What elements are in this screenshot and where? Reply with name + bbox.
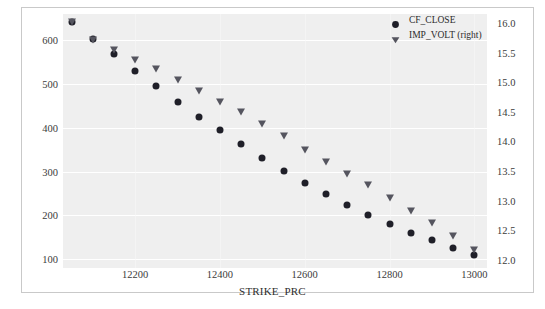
gridline-horizontal — [63, 215, 487, 216]
data-point-imp-volt — [386, 194, 394, 201]
y-tick-label-left: 100 — [42, 254, 58, 265]
data-point-imp-volt — [110, 46, 118, 53]
gridline-horizontal — [63, 259, 487, 260]
y-tick-label-left: 200 — [42, 210, 58, 221]
data-point-imp-volt — [174, 77, 182, 84]
data-point-imp-volt — [407, 207, 415, 214]
data-point-imp-volt — [343, 170, 351, 177]
y-tick-label-right: 13.5 — [497, 165, 515, 176]
gridline-vertical — [220, 14, 221, 268]
data-point-imp-volt — [428, 220, 436, 227]
data-point-imp-volt — [216, 99, 224, 106]
triangle-down-marker-icon — [390, 31, 401, 42]
data-point-imp-volt — [470, 246, 478, 253]
x-axis-title: STRIKE_PRC — [0, 285, 545, 297]
y-tick-label-right: 13.0 — [497, 195, 515, 206]
y-tick-label-right: 12.0 — [497, 254, 515, 265]
data-point-cf-close — [195, 113, 202, 120]
gridline-horizontal — [63, 84, 487, 85]
legend-item-cf-close[interactable]: CF_CLOSE — [390, 14, 510, 27]
data-point-cf-close — [450, 245, 457, 252]
chart-legend: CF_CLOSE IMP_VOLT (right) — [390, 14, 510, 44]
y-tick-label-left: 500 — [42, 79, 58, 90]
x-tick-label: 12800 — [376, 269, 402, 280]
y-tick-label-right: 14.0 — [497, 136, 515, 147]
plot-area — [63, 14, 487, 268]
data-point-imp-volt — [280, 133, 288, 140]
data-point-cf-close — [386, 221, 393, 228]
y-tick-label-right: 15.5 — [497, 47, 515, 58]
data-point-imp-volt — [195, 88, 203, 95]
data-point-cf-close — [407, 229, 414, 236]
data-point-imp-volt — [364, 182, 372, 189]
data-point-imp-volt — [322, 159, 330, 166]
legend-item-imp-volt[interactable]: IMP_VOLT (right) — [390, 29, 510, 42]
circle-marker-icon — [390, 16, 401, 27]
data-point-imp-volt — [68, 19, 76, 26]
legend-label-cf-close: CF_CLOSE — [409, 14, 455, 27]
data-point-cf-close — [216, 127, 223, 134]
y-tick-label-left: 400 — [42, 122, 58, 133]
legend-label-imp-volt: IMP_VOLT (right) — [409, 29, 482, 42]
data-point-cf-close — [301, 180, 308, 187]
data-point-cf-close — [365, 212, 372, 219]
data-point-imp-volt — [449, 233, 457, 240]
data-point-imp-volt — [152, 66, 160, 73]
data-point-imp-volt — [237, 108, 245, 115]
y-tick-label-left: 600 — [42, 35, 58, 46]
data-point-cf-close — [280, 167, 287, 174]
chart-figure: 100200300400500600 12.012.513.013.514.01… — [0, 0, 545, 309]
y-tick-label-right: 14.5 — [497, 106, 515, 117]
gridline-horizontal — [63, 172, 487, 173]
gridline-vertical — [135, 14, 136, 268]
x-tick-label: 13000 — [461, 269, 487, 280]
data-point-imp-volt — [89, 36, 97, 43]
y-axis-left: 100200300400500600 — [0, 14, 58, 268]
gridline-horizontal — [63, 128, 487, 129]
data-point-imp-volt — [258, 120, 266, 127]
gridline-vertical — [390, 14, 391, 268]
data-point-imp-volt — [131, 57, 139, 64]
data-point-imp-volt — [301, 146, 309, 153]
data-point-cf-close — [174, 98, 181, 105]
data-point-cf-close — [132, 68, 139, 75]
data-point-cf-close — [238, 141, 245, 148]
x-tick-label: 12400 — [207, 269, 233, 280]
gridline-vertical — [474, 14, 475, 268]
x-tick-label: 12600 — [292, 269, 318, 280]
y-tick-label-right: 12.5 — [497, 225, 515, 236]
y-tick-label-left: 300 — [42, 166, 58, 177]
y-axis-right: 12.012.513.013.514.014.515.015.516.0 — [497, 14, 543, 268]
data-point-cf-close — [259, 155, 266, 162]
x-tick-label: 12200 — [122, 269, 148, 280]
data-point-cf-close — [153, 83, 160, 90]
data-point-cf-close — [344, 201, 351, 208]
data-point-cf-close — [428, 237, 435, 244]
gridline-vertical — [305, 14, 306, 268]
y-tick-label-right: 15.0 — [497, 77, 515, 88]
data-point-cf-close — [322, 190, 329, 197]
x-axis: 1220012400126001280013000 — [63, 269, 487, 285]
